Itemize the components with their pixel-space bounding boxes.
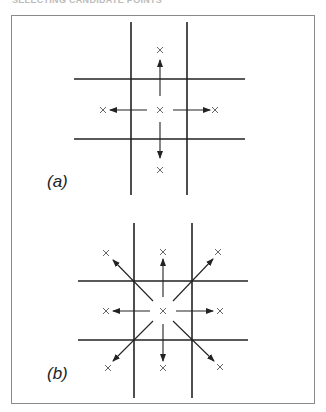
panel-a-arrows [110, 60, 210, 158]
diagram-canvas [0, 0, 326, 412]
panel-b-label: (b) [47, 364, 68, 384]
panel-a-label: (a) [47, 172, 68, 192]
